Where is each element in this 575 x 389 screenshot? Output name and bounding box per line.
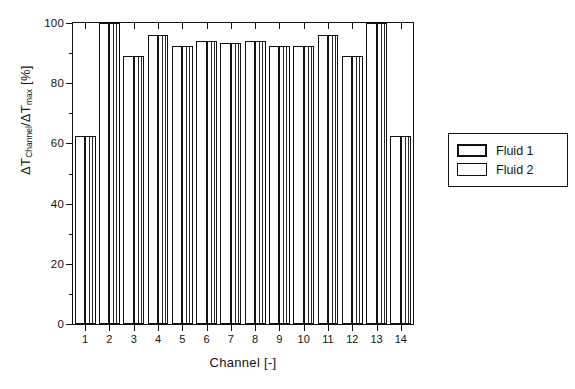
x-tick-label: 8: [252, 333, 258, 345]
x-tick-top: [352, 23, 353, 29]
legend: Fluid 1Fluid 2: [448, 133, 568, 187]
y-tick-major: [66, 264, 73, 265]
x-tick-label: 14: [395, 333, 407, 345]
x-tick-major: [231, 324, 232, 331]
x-tick-top: [279, 23, 280, 29]
bar-fluid-1-ch2: [99, 23, 109, 324]
x-tick-label: 9: [276, 333, 282, 345]
y-tick-label: 0: [57, 318, 64, 330]
legend-label: Fluid 2: [496, 163, 534, 177]
bar-fluid-2-ch8: [255, 41, 265, 324]
bar-fluid-2-ch2: [109, 23, 119, 324]
bar-fluid-1-ch1: [75, 136, 85, 324]
y-tick-minor: [69, 234, 73, 235]
bar-fluid-1-ch7: [220, 43, 230, 324]
bar-fluid-2-ch1: [85, 136, 95, 324]
legend-item: Fluid 2: [457, 160, 559, 179]
bar-fluid-2-ch5: [182, 46, 192, 324]
bar-fluid-2-ch7: [231, 43, 241, 324]
bar-fluid-2-ch12: [352, 56, 362, 324]
x-tick-top: [304, 23, 305, 29]
y-tick-minor: [69, 174, 73, 175]
y-tick-major: [66, 23, 73, 24]
x-tick-top: [85, 23, 86, 29]
x-tick-major: [401, 324, 402, 331]
y-tick-label: 60: [51, 137, 64, 149]
bar-fluid-1-ch5: [172, 46, 182, 324]
y-tick-minor: [69, 294, 73, 295]
x-tick-major: [85, 324, 86, 331]
x-tick-label: 3: [131, 333, 137, 345]
y-tick-major: [66, 324, 73, 325]
bar-fluid-1-ch8: [245, 41, 255, 324]
bar-fluid-1-ch12: [342, 56, 352, 324]
bar-fluid-2-ch6: [207, 41, 217, 324]
legend-swatch-icon: [457, 144, 487, 157]
y-tick-major: [66, 143, 73, 144]
x-tick-major: [279, 324, 280, 331]
bar-fluid-2-ch13: [377, 23, 387, 324]
x-tick-top: [158, 23, 159, 29]
x-tick-top: [255, 23, 256, 29]
y-axis-title-delta1: ΔT: [18, 158, 33, 175]
x-tick-top: [207, 23, 208, 29]
x-tick-label: 10: [298, 333, 310, 345]
x-tick-label: 7: [228, 333, 234, 345]
y-tick-major: [66, 83, 73, 84]
bar-fluid-2-ch10: [304, 46, 314, 324]
y-tick-label: 80: [51, 77, 64, 89]
y-tick-label: 20: [51, 258, 64, 270]
bar-fluid-2-ch9: [279, 46, 289, 324]
x-tick-major: [352, 324, 353, 331]
x-tick-major: [377, 324, 378, 331]
x-tick-major: [158, 324, 159, 331]
x-tick-major: [304, 324, 305, 331]
x-tick-label: 4: [155, 333, 161, 345]
bar-fluid-1-ch9: [269, 46, 279, 324]
x-tick-top: [182, 23, 183, 29]
bar-fluid-1-ch14: [390, 136, 400, 324]
bar-fluid-2-ch4: [158, 35, 168, 324]
x-tick-major: [182, 324, 183, 331]
plot-area: 0204060801001234567891011121314: [72, 22, 414, 325]
bar-fluid-1-ch3: [123, 56, 133, 324]
y-tick-major: [66, 204, 73, 205]
y-tick-label: 40: [51, 198, 64, 210]
x-tick-top: [401, 23, 402, 29]
x-tick-major: [207, 324, 208, 331]
x-tick-label: 5: [179, 333, 185, 345]
x-tick-major: [134, 324, 135, 331]
bar-fluid-1-ch4: [148, 35, 158, 324]
bar-fluid-2-ch14: [401, 136, 411, 324]
x-tick-top: [231, 23, 232, 29]
bar-fluid-2-ch3: [134, 56, 144, 324]
chart-figure: 0204060801001234567891011121314 Channel …: [0, 0, 575, 389]
x-tick-label: 2: [106, 333, 112, 345]
x-tick-major: [109, 324, 110, 331]
bar-fluid-1-ch6: [196, 41, 206, 324]
x-tick-label: 11: [322, 333, 333, 345]
x-tick-label: 6: [204, 333, 210, 345]
legend-label: Fluid 1: [496, 144, 534, 158]
x-tick-major: [328, 324, 329, 331]
x-tick-major: [255, 324, 256, 331]
x-tick-label: 13: [370, 333, 382, 345]
x-tick-top: [134, 23, 135, 29]
legend-item: Fluid 1: [457, 141, 559, 160]
bar-fluid-2-ch11: [328, 35, 338, 324]
x-axis-title: Channel [-]: [72, 355, 414, 370]
y-axis-title-unit: [%]: [18, 65, 33, 89]
y-tick-label: 100: [44, 17, 64, 29]
y-axis-title-sub-channel: Channel: [24, 126, 34, 158]
y-axis-title-slash: /ΔT: [18, 105, 33, 126]
y-tick-minor: [69, 113, 73, 114]
x-tick-top: [328, 23, 329, 29]
x-tick-label: 12: [346, 333, 358, 345]
bars-layer: [73, 23, 413, 324]
y-axis-title: ΔTChannel/ΔTmax [%]: [18, 10, 34, 230]
legend-swatch-icon: [457, 163, 487, 176]
bar-fluid-1-ch10: [293, 46, 303, 324]
y-tick-minor: [69, 53, 73, 54]
y-axis-title-sub-max: max: [24, 89, 34, 105]
bar-fluid-1-ch13: [366, 23, 376, 324]
